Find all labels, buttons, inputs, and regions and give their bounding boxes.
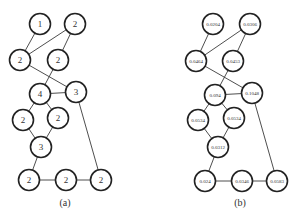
node-label: 0.0534 xyxy=(191,118,205,123)
panel-b-weighted-graph: 0.02040.03060.04640.04530.0940.10480.053… xyxy=(186,14,288,210)
panel-caption: (b) xyxy=(234,197,246,209)
graph-node: 3 xyxy=(31,137,52,158)
panel-caption: (a) xyxy=(59,197,70,209)
graph-diagram: 122243223222(a) 0.02040.03060.04640.0453… xyxy=(0,0,297,212)
graph-figure: 122243223222(a) 0.02040.03060.04640.0453… xyxy=(0,0,297,212)
node-label: 0.0583 xyxy=(270,179,284,184)
node-label: 3 xyxy=(39,142,44,152)
graph-node: 0.0534 xyxy=(224,108,245,129)
graph-node: 0.0464 xyxy=(186,51,207,72)
graph-node: 1 xyxy=(30,14,51,35)
node-label: 2 xyxy=(64,175,69,185)
node-label: 0.0306 xyxy=(243,22,257,27)
node-label: 2 xyxy=(21,115,26,125)
node-label: 0.0312 xyxy=(211,145,225,150)
graph-node: 4 xyxy=(30,84,51,105)
node-label: 2 xyxy=(56,55,61,65)
node-label: 0.024 xyxy=(199,179,211,184)
node-label: 1 xyxy=(38,19,43,29)
node-label: 2 xyxy=(56,113,61,123)
node-label: 2 xyxy=(99,175,104,185)
graph-node: 0.1048 xyxy=(242,83,263,104)
node-label: 2 xyxy=(18,55,23,65)
node-label: 0.1048 xyxy=(245,91,259,96)
graph-node: 0.024 xyxy=(195,171,216,192)
panel-a-degree-graph: 122243223222(a) xyxy=(10,14,112,210)
node-label: 0.0346 xyxy=(235,179,249,184)
graph-node: 2 xyxy=(91,170,112,191)
node-label: 2 xyxy=(27,175,32,185)
graph-edge xyxy=(76,92,101,180)
node-label: 0.0464 xyxy=(189,59,203,64)
graph-node: 0.0346 xyxy=(232,171,253,192)
node-label: 4 xyxy=(38,89,43,99)
graph-node: 0.094 xyxy=(205,85,226,106)
graph-node: 2 xyxy=(13,110,34,131)
graph-node: 2 xyxy=(48,50,69,71)
graph-node: 0.0312 xyxy=(208,137,229,158)
graph-node: 0.0534 xyxy=(188,110,209,131)
graph-node: 2 xyxy=(10,50,31,71)
graph-node: 2 xyxy=(19,170,40,191)
graph-edge xyxy=(252,93,277,181)
node-label: 3 xyxy=(74,87,79,97)
node-label: 0.0204 xyxy=(206,22,220,27)
node-label: 0.0453 xyxy=(226,59,240,64)
graph-node: 0.0583 xyxy=(267,171,288,192)
node-label: 0.0534 xyxy=(227,116,241,121)
graph-node: 3 xyxy=(66,82,87,103)
node-label: 0.094 xyxy=(209,93,221,98)
graph-node: 0.0306 xyxy=(240,14,261,35)
graph-node: 2 xyxy=(48,108,69,129)
graph-node: 2 xyxy=(56,170,77,191)
graph-node: 0.0453 xyxy=(223,51,244,72)
graph-node: 0.0204 xyxy=(203,14,224,35)
node-label: 2 xyxy=(73,19,78,29)
graph-node: 2 xyxy=(65,14,86,35)
